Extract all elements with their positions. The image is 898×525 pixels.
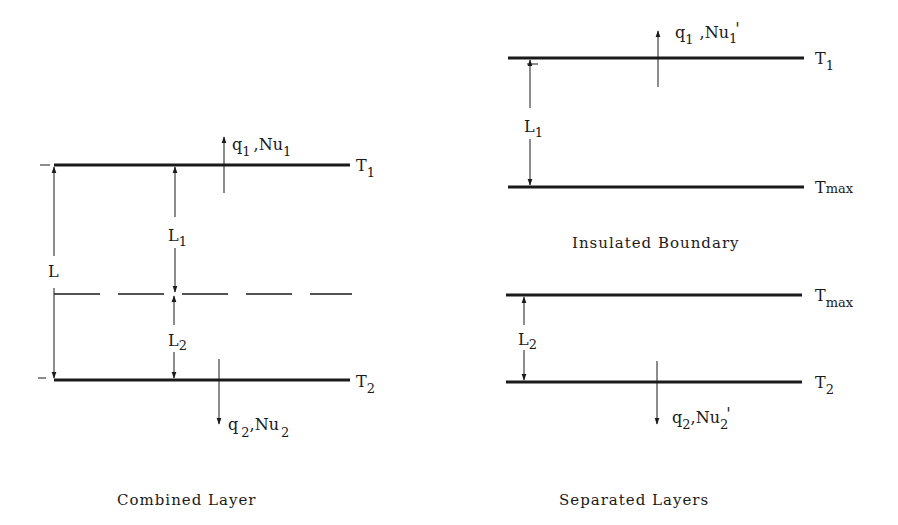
- separated-t1-label: T1: [815, 49, 834, 73]
- separated-L2-label: L2: [518, 330, 537, 352]
- diagram-canvas: T1 T2 L L1 L2 q1,Nu1 q2,Nu2 Combined Lay…: [0, 0, 898, 525]
- separated-q2-nu2-label: q2,Nu2': [672, 404, 731, 432]
- separated-q1-nu1-label: q1,Nu1': [675, 19, 740, 47]
- separated-tmax-label-upper: Tmax: [815, 178, 854, 197]
- separated-tmax-label-lower: Tmax: [815, 286, 854, 310]
- separated-layers-caption: Separated Layers: [559, 491, 709, 509]
- combined-L2-label: L2: [168, 331, 187, 353]
- combined-L1-label: L1: [168, 226, 187, 249]
- separated-L1-label: L1: [524, 117, 543, 140]
- insulated-boundary-label: Insulated Boundary: [572, 234, 740, 252]
- separated-layers-diagram: T1 Tmax L1 q1,Nu1' Insulated Boundary Tm…: [506, 19, 854, 509]
- combined-layer-diagram: T1 T2 L L1 L2 q1,Nu1 q2,Nu2 Combined Lay…: [38, 135, 375, 509]
- combined-q2-nu2-label: q2,Nu2: [228, 415, 289, 440]
- combined-q1-nu1-label: q1,Nu1: [232, 135, 291, 159]
- combined-layer-caption: Combined Layer: [117, 491, 256, 509]
- separated-t2-label: T2: [815, 373, 834, 397]
- combined-t1-label: T1: [356, 156, 375, 180]
- combined-L-label: L: [48, 262, 59, 281]
- combined-t2-label: T2: [356, 372, 375, 396]
